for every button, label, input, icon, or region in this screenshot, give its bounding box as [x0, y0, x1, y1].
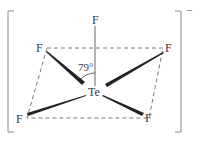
tef5-structure-diagram: − 79° F F F F F Te: [0, 0, 203, 143]
bond-lower-left: [27, 95, 86, 116]
bond-upper-right: [105, 52, 164, 87]
bond-lower-right: [102, 95, 144, 116]
atom-F-upper-right: F: [165, 41, 172, 55]
angle-arc: [80, 73, 95, 80]
atom-F-lower-left: F: [16, 112, 23, 126]
atom-F-axial: F: [92, 13, 99, 27]
atom-F-upper-left: F: [36, 41, 43, 55]
charge-label: −: [186, 4, 192, 16]
left-bracket: [8, 11, 14, 132]
atom-Te-central: Te: [88, 85, 100, 99]
angle-label: 79°: [78, 61, 93, 73]
right-bracket: [175, 11, 181, 132]
atom-F-lower-right: F: [145, 111, 152, 125]
